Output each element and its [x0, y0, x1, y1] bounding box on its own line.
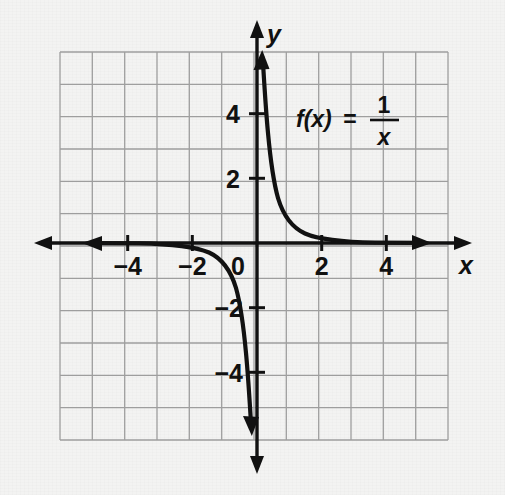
x-axis-label: x — [457, 251, 474, 279]
function-annotation: f(x) = 1 x — [296, 92, 399, 150]
x-axis-arrow-left — [34, 236, 52, 250]
graph-figure: −4 −2 2 4 4 2 −2 −4 0 x y — [0, 0, 505, 495]
curve-arrow-right — [412, 235, 432, 250]
x-tick-label--4: −4 — [113, 252, 142, 280]
y-tick-label--4: −4 — [214, 359, 243, 387]
x-axis-arrow-right — [454, 236, 472, 250]
y-tick-label-2: 2 — [226, 165, 240, 193]
fraction-numerator: 1 — [378, 92, 391, 118]
equals-sign: = — [343, 106, 356, 132]
y-axis-arrow-down — [250, 456, 264, 474]
x-tick-label--2: −2 — [178, 252, 207, 280]
y-axis-label: y — [265, 20, 282, 48]
x-tick-label-2: 2 — [315, 252, 329, 280]
x-tick-label-4: 4 — [379, 252, 393, 280]
coordinate-plane-svg: −4 −2 2 4 4 2 −2 −4 0 x y — [0, 0, 505, 495]
function-lhs-f: f(x) — [296, 106, 332, 132]
svg-text:f(x): f(x) — [296, 106, 332, 132]
y-axis — [250, 20, 264, 474]
y-axis-arrow-up — [250, 20, 264, 38]
fraction-denominator: x — [376, 124, 392, 150]
y-tick-label-4: 4 — [226, 100, 240, 128]
